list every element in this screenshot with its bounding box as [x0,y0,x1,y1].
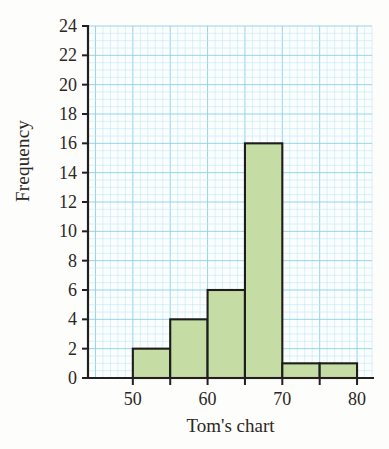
x-axis-tick-labels: 50607080 [0,0,389,449]
x-tick-label: 50 [113,390,153,408]
x-tick-label: 70 [262,390,302,408]
x-tick-label: 80 [337,390,377,408]
y-axis-title: Frequency [12,76,34,246]
histogram-figure: 024681012141618202224 50607080 Frequency… [0,0,389,449]
x-axis-title: Tom's chart [88,415,373,437]
x-tick-label: 60 [188,390,228,408]
